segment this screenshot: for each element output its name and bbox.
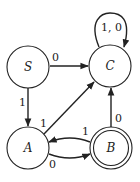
edge-label-s-c: 0	[52, 51, 59, 64]
edge-label-b-c: 0	[115, 112, 122, 125]
edge-label-s-a: 1	[19, 96, 26, 109]
edge-label-a-c: 1	[40, 117, 47, 130]
state-s: S	[7, 46, 49, 88]
edge-s-to-c: 0	[50, 51, 88, 66]
edge-label-a-b: 0	[49, 158, 56, 171]
state-a: A	[7, 127, 49, 169]
edge-b-to-c: 0	[111, 88, 122, 127]
edge-c-self-loop: 1, 0	[95, 13, 127, 47]
state-b-accepting: B	[90, 127, 132, 169]
state-label-s: S	[24, 60, 32, 74]
state-label-a: A	[23, 141, 33, 155]
edge-label-b-a: 1	[82, 125, 89, 138]
state-label-b: B	[106, 141, 116, 155]
edge-label-c-c: 1, 0	[101, 21, 122, 34]
state-c: C	[89, 45, 131, 87]
edge-s-to-a: 1	[19, 88, 28, 126]
edge-a-to-b: 0	[49, 154, 90, 171]
state-label-c: C	[105, 59, 114, 73]
state-diagram: 0 1 1 0 1 0 1, 0 S C A B	[0, 0, 140, 182]
edge-b-to-a: 1	[49, 125, 90, 142]
